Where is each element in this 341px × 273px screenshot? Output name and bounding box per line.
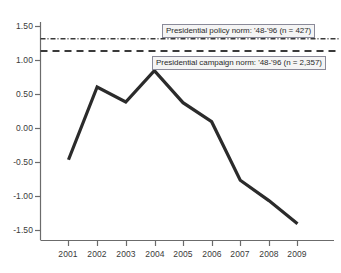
policy-norm-annotation: Presidential policy norm: '48-'96 (n = 4… xyxy=(162,24,315,38)
chart-container: 1.50 1.00 0.50 0.00 -0.50 -1.00 -1.50 20… xyxy=(0,0,341,273)
x-tick-label-2009: 2009 xyxy=(280,249,314,259)
y-axis-ticks xyxy=(35,27,41,231)
y-tick-label-1: 1.50 xyxy=(3,21,33,31)
y-tick-label-2: 1.00 xyxy=(3,55,33,65)
y-tick-label-5: -0.50 xyxy=(3,157,33,167)
chart-plot-area xyxy=(0,0,341,273)
campaign-norm-annotation: Presidential campaign norm: '48-'96 (n =… xyxy=(152,56,326,70)
data-series-line xyxy=(69,71,298,224)
y-tick-label-7: -1.50 xyxy=(3,225,33,235)
y-tick-label-6: -1.00 xyxy=(3,191,33,201)
y-tick-label-3: 0.50 xyxy=(3,89,33,99)
y-tick-label-4: 0.00 xyxy=(3,123,33,133)
x-axis-ticks xyxy=(69,241,298,247)
